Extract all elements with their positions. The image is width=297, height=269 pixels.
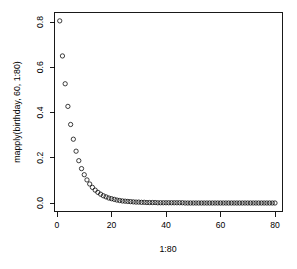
data-point bbox=[79, 166, 83, 170]
data-point bbox=[66, 104, 70, 108]
x-tick-label: 40 bbox=[161, 220, 171, 230]
data-point-group bbox=[58, 19, 278, 205]
r-plot-canvas: 020406080 0.00.20.40.60.8 1:80 mapply(bi… bbox=[0, 0, 297, 269]
y-axis-tick-group bbox=[50, 22, 55, 203]
data-point bbox=[82, 173, 86, 177]
y-tick-label: 0.4 bbox=[35, 106, 45, 118]
x-tick-label: 0 bbox=[55, 220, 60, 230]
data-point bbox=[60, 54, 64, 58]
y-tick-label: 0.0 bbox=[35, 197, 45, 209]
y-tick-label: 0.8 bbox=[35, 16, 45, 28]
x-tick-label: 60 bbox=[216, 220, 226, 230]
x-axis-tick-label-group: 020406080 bbox=[55, 220, 280, 230]
data-point bbox=[71, 137, 75, 141]
x-tick-label: 80 bbox=[270, 220, 280, 230]
x-axis-title: 1:80 bbox=[159, 244, 176, 254]
data-point bbox=[58, 19, 62, 23]
data-point bbox=[93, 188, 97, 192]
x-axis-tick-group bbox=[57, 212, 275, 217]
data-point bbox=[74, 149, 78, 153]
data-point bbox=[90, 185, 94, 189]
data-point bbox=[85, 178, 89, 182]
scatter-plot-svg: 020406080 0.00.20.40.60.8 1:80 mapply(bi… bbox=[0, 0, 297, 269]
data-point bbox=[104, 195, 108, 199]
y-axis-title: mapply(birthday, 60, 1:80) bbox=[12, 61, 22, 163]
y-axis-tick-label-group: 0.00.20.40.60.8 bbox=[35, 16, 45, 209]
y-tick-label: 0.6 bbox=[35, 61, 45, 73]
data-point bbox=[63, 82, 67, 86]
data-point bbox=[273, 201, 277, 205]
data-point bbox=[77, 159, 81, 163]
y-tick-label: 0.2 bbox=[35, 152, 45, 164]
data-point bbox=[68, 122, 72, 126]
x-tick-label: 20 bbox=[107, 220, 117, 230]
